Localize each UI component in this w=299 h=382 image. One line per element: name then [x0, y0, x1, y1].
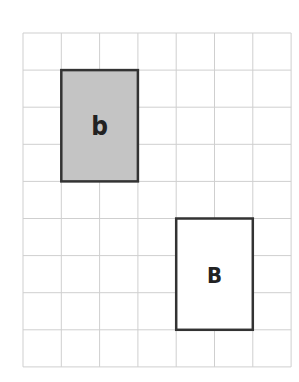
rect-b-label: b [91, 111, 108, 141]
rect-B-group: B [176, 219, 253, 330]
shapes-layer: b B [61, 70, 252, 330]
rect-B-label: B [207, 263, 222, 288]
grid-diagram: b B [0, 0, 299, 382]
rect-b-group: b [61, 70, 138, 181]
